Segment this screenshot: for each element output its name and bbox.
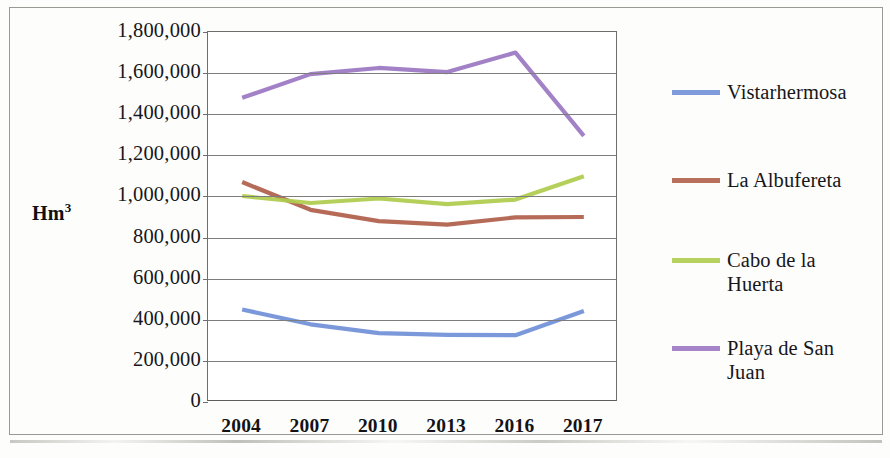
y-axis-tick-label: 400,000 <box>81 308 201 329</box>
y-axis-tick-label: 1,800,000 <box>81 20 201 41</box>
y-axis-title: Hm3 <box>32 200 72 225</box>
line-chart: Hm3 1,800,0001,600,0001,400,0001,200,000… <box>0 0 890 458</box>
plot-area <box>207 31 617 401</box>
y-axis-tick-labels: 1,800,0001,600,0001,400,0001,200,0001,00… <box>75 0 201 458</box>
y-axis-tick <box>203 196 208 197</box>
gridline <box>208 114 616 115</box>
legend-label: Cabo de la Huerta <box>727 248 873 296</box>
y-axis-tick <box>203 279 208 280</box>
gridline <box>208 155 616 156</box>
y-axis-tick-label: 1,200,000 <box>81 143 201 164</box>
gridline <box>208 73 616 74</box>
y-axis-tick <box>203 155 208 156</box>
series-line-playa-de-san-juan <box>242 53 584 136</box>
gridline <box>208 279 616 280</box>
y-axis-tick <box>203 114 208 115</box>
legend-label: Vistarhermosa <box>727 80 847 104</box>
y-axis-tick-label: 0 <box>81 390 201 411</box>
legend-label: Playa de San Juan <box>727 336 873 384</box>
x-axis-tick-label: 2017 <box>543 415 623 437</box>
y-axis-tick <box>203 361 208 362</box>
series-line-vistarhermosa <box>242 310 584 336</box>
gridline <box>208 238 616 239</box>
y-axis-tick-label: 800,000 <box>81 226 201 247</box>
y-axis-tick <box>203 320 208 321</box>
chart-page: Hm3 1,800,0001,600,0001,400,0001,200,000… <box>0 0 890 458</box>
legend-item[interactable]: Cabo de la Huerta <box>672 248 873 296</box>
series-line-cabo-de-la-huerta <box>242 176 584 204</box>
y-axis-tick-label: 1,600,000 <box>81 61 201 82</box>
y-axis-tick-label: 200,000 <box>81 349 201 370</box>
y-axis-tick-label: 1,000,000 <box>81 184 201 205</box>
y-axis-tick-label: 1,400,000 <box>81 102 201 123</box>
gridline <box>208 196 616 197</box>
y-axis-title-superscript: 3 <box>65 200 72 215</box>
y-axis-tick <box>203 238 208 239</box>
legend-item[interactable]: La Albufereta <box>672 168 842 192</box>
legend-label: La Albufereta <box>727 168 842 192</box>
gridline <box>208 361 616 362</box>
y-axis-title-text: Hm <box>32 202 65 224</box>
y-axis-tick <box>203 402 208 403</box>
legend-item[interactable]: Playa de San Juan <box>672 336 873 384</box>
series-layer <box>208 32 618 402</box>
legend-item[interactable]: Vistarhermosa <box>672 80 847 104</box>
y-axis-tick <box>203 32 208 33</box>
y-axis-tick-label: 600,000 <box>81 267 201 288</box>
legend-swatch-icon <box>672 90 720 95</box>
legend-swatch-icon <box>672 178 720 183</box>
legend-swatch-icon <box>672 258 720 263</box>
legend-swatch-icon <box>672 346 720 351</box>
gridline <box>208 320 616 321</box>
y-axis-tick <box>203 73 208 74</box>
